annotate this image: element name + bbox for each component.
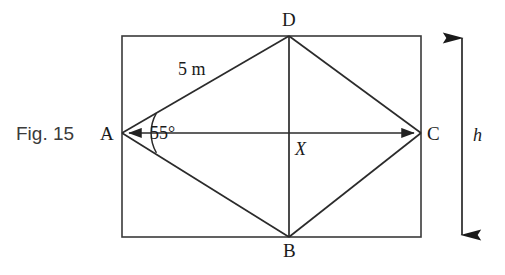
height-label: h: [473, 126, 482, 144]
vertex-label-c: C: [427, 124, 440, 143]
edge-c-b: [289, 133, 421, 237]
figure-container: Fig. 15 A D C B X 5 m 55° h: [0, 0, 505, 275]
angle-label: 55°: [150, 124, 175, 142]
vertex-label-b: B: [283, 241, 296, 260]
vertex-label-d: D: [282, 10, 296, 29]
figure-caption: Fig. 15: [16, 124, 74, 143]
edge-a-d: [122, 36, 289, 133]
center-point-label-x: X: [295, 140, 306, 158]
edge-d-c: [289, 36, 421, 133]
edge-b-a: [122, 133, 289, 237]
side-length-label: 5 m: [178, 60, 206, 78]
vertex-label-a: A: [100, 124, 114, 143]
